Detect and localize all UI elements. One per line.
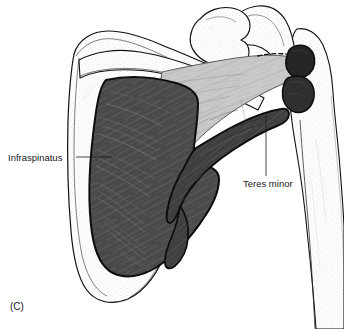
- anatomy-illustration: Infraspinatus Teres minor (C): [0, 0, 344, 329]
- anatomy-figure-panel-c: Infraspinatus Teres minor (C): [0, 0, 344, 329]
- insertion-facet-upper: [286, 45, 315, 77]
- label-teres-minor: Teres minor: [243, 178, 293, 189]
- insertion-facet-lower: [282, 76, 314, 113]
- panel-label-c: (C): [10, 301, 24, 312]
- label-infraspinatus: Infraspinatus: [8, 152, 63, 163]
